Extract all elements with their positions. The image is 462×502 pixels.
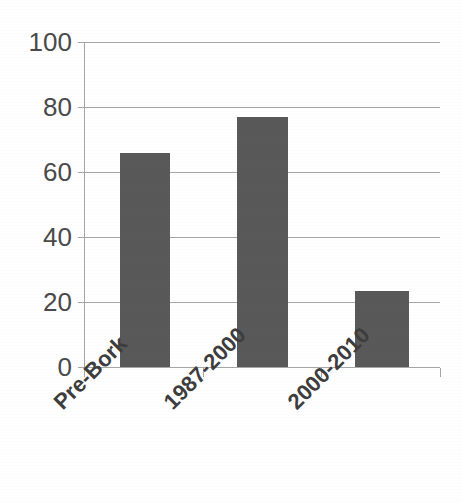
y-axis-tick-label-80: 80 <box>4 94 72 120</box>
plot-area <box>84 42 440 367</box>
x-axis-tick-mark-end <box>440 368 441 377</box>
gridline-baseline-0 <box>84 367 440 368</box>
y-axis-tick-label-40: 40 <box>4 224 72 250</box>
y-axis-tick-label-60: 60 <box>4 159 72 185</box>
gridline-100 <box>84 42 440 43</box>
gridline-80 <box>84 107 440 108</box>
y-axis-tick-label-100: 100 <box>4 29 72 55</box>
bar-pre-bork <box>120 153 170 368</box>
bar-1987-2000 <box>237 117 288 367</box>
y-axis-tick-label-20: 20 <box>4 289 72 315</box>
y-axis-label-group: 100 80 60 40 20 0 <box>0 0 72 502</box>
bar-chart: 100 80 60 40 20 0 Pre-Bork 1987-2000 200… <box>0 0 462 502</box>
y-axis-tick-label-0: 0 <box>4 354 72 380</box>
